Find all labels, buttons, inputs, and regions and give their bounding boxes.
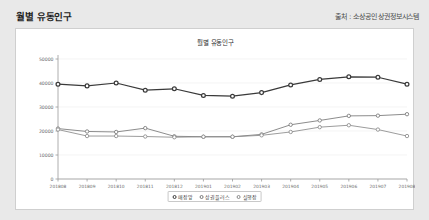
x-tick-label: 201907 xyxy=(370,184,387,189)
monthly-floating-population-widget: 월별 유동인구 출처 : 소상공인 상권정보시스템 월별 유동인구 010000… xyxy=(0,0,429,220)
series-point xyxy=(289,123,292,126)
series-point xyxy=(347,114,350,117)
series-point xyxy=(318,125,321,128)
chart-legend: 매장앞상권플러스실행장 xyxy=(167,191,262,202)
legend-marker-icon xyxy=(237,195,241,199)
series-point xyxy=(173,136,176,139)
y-tick-label: 50000 xyxy=(39,57,54,62)
source-attribution: 출처 : 소상공인 상권정보시스템 xyxy=(335,11,419,21)
series-point xyxy=(405,134,408,137)
x-tick-label: 201809 xyxy=(79,184,96,189)
series-point xyxy=(85,130,88,133)
series-point xyxy=(347,124,350,127)
series-point xyxy=(347,75,351,79)
series-point xyxy=(114,130,117,133)
legend-marker-icon xyxy=(172,195,176,199)
legend-marker-icon xyxy=(199,195,203,199)
series-point xyxy=(231,94,235,98)
chart-plot-area: 0100002000030000400005000020180820180920… xyxy=(16,29,415,211)
page-title: 월별 유동인구 xyxy=(16,9,72,23)
series-point xyxy=(318,119,321,122)
series-point xyxy=(231,135,234,138)
series-point xyxy=(85,84,89,88)
widget-header: 월별 유동인구 출처 : 소상공인 상권정보시스템 xyxy=(0,0,429,28)
series-line xyxy=(58,77,407,96)
series-point xyxy=(260,134,263,137)
series-point xyxy=(172,87,176,91)
series-point xyxy=(376,75,380,79)
x-tick-label: 201906 xyxy=(340,184,357,189)
chart-card: 월별 유동인구 01000020000300004000050000201808… xyxy=(15,28,414,210)
series-point xyxy=(405,113,408,116)
series-point xyxy=(144,126,147,129)
x-tick-label: 201808 xyxy=(50,184,67,189)
x-tick-label: 201904 xyxy=(282,184,299,189)
series-point xyxy=(143,88,147,92)
series-point xyxy=(85,134,88,137)
series-point xyxy=(376,114,379,117)
series-point xyxy=(202,94,206,98)
series-point xyxy=(202,135,205,138)
x-tick-label: 201902 xyxy=(224,184,241,189)
series-point xyxy=(260,91,264,95)
series-point xyxy=(289,130,292,133)
series-line xyxy=(58,114,407,137)
legend-label: 매장앞 xyxy=(178,193,192,200)
legend-item[interactable]: 상권플러스 xyxy=(199,193,229,200)
line-chart-svg: 0100002000030000400005000020180820180920… xyxy=(16,29,415,211)
legend-item[interactable]: 매장앞 xyxy=(172,193,192,200)
series-point xyxy=(114,81,118,85)
legend-label: 상권플러스 xyxy=(205,193,229,200)
y-tick-label: 20000 xyxy=(39,129,54,134)
series-point xyxy=(318,78,322,82)
series-point xyxy=(405,82,409,86)
y-tick-label: 30000 xyxy=(39,105,54,110)
x-tick-label: 201811 xyxy=(137,184,154,189)
y-tick-label: 0 xyxy=(51,177,54,182)
legend-label: 실행장 xyxy=(243,193,257,200)
series-point xyxy=(144,135,147,138)
x-tick-label: 201908 xyxy=(399,184,415,189)
x-tick-label: 201812 xyxy=(166,184,183,189)
x-tick-label: 201901 xyxy=(195,184,212,189)
y-tick-label: 40000 xyxy=(39,81,54,86)
series-point xyxy=(376,128,379,131)
x-tick-label: 201810 xyxy=(108,184,125,189)
series-point xyxy=(56,82,60,86)
series-point xyxy=(56,128,59,131)
series-point xyxy=(289,83,293,87)
y-tick-label: 10000 xyxy=(39,153,54,158)
x-tick-label: 201905 xyxy=(311,184,328,189)
x-tick-label: 201903 xyxy=(253,184,270,189)
series-point xyxy=(114,134,117,137)
legend-item[interactable]: 실행장 xyxy=(237,193,257,200)
